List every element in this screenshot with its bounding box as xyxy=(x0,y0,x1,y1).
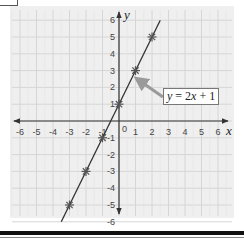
y-tick-label: -2 xyxy=(107,150,115,160)
x-tick-label: -2 xyxy=(82,127,90,137)
y-tick-label: -5 xyxy=(107,200,115,210)
equation-label: y = 2x + 1 xyxy=(163,88,219,105)
x-tick-label: 6 xyxy=(215,127,220,137)
y-tick-label: -6 xyxy=(107,217,115,227)
x-tick-label: -3 xyxy=(65,127,73,137)
x-tick-label: -6 xyxy=(16,127,24,137)
origin-label: 0 xyxy=(122,124,127,134)
x-tick-label: -4 xyxy=(49,127,57,137)
x-axis-label: x xyxy=(225,123,232,138)
x-tick-label: 1 xyxy=(133,127,138,137)
bottom-rule-thick xyxy=(0,231,244,235)
bottom-rule-thin xyxy=(0,237,244,238)
x-tick-label: 2 xyxy=(149,127,154,137)
eq-rest: + 1 xyxy=(196,89,215,103)
y-tick-label: 3 xyxy=(110,66,115,76)
y-tick-label: 1 xyxy=(110,99,115,109)
y-tick-label: 6 xyxy=(110,15,115,25)
y-tick-label: 5 xyxy=(110,32,115,42)
y-tick-label: -4 xyxy=(107,183,115,193)
x-tick-label: 3 xyxy=(166,127,171,137)
y-tick-label: -1 xyxy=(107,133,115,143)
y-tick-label: 2 xyxy=(110,82,115,92)
y-tick-label: 4 xyxy=(110,49,115,59)
eq-eq: = 2 xyxy=(172,89,191,103)
y-axis-label: y xyxy=(122,7,130,22)
x-tick-label: 5 xyxy=(199,127,204,137)
x-tick-label: -5 xyxy=(32,127,40,137)
y-tick-label: -3 xyxy=(107,166,115,176)
x-tick-label: 4 xyxy=(182,127,187,137)
chart-canvas: -6-5-4-3-2-1123456-6-5-4-3-2-11234560xy xyxy=(0,0,244,250)
annotation-arrow xyxy=(139,80,164,97)
